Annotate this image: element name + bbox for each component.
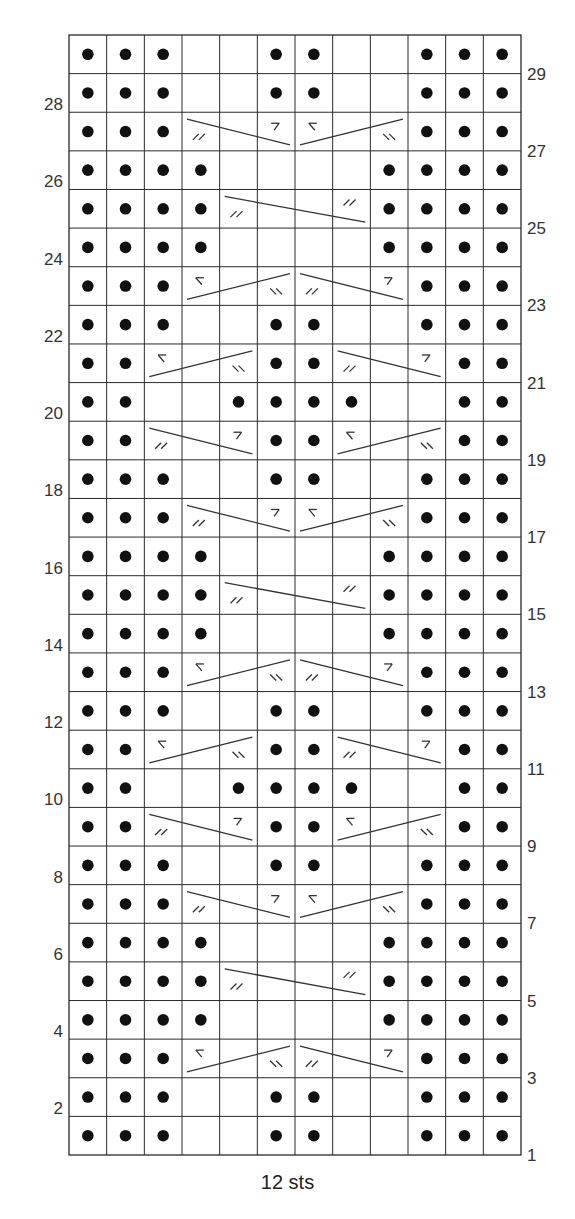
purl-dot-icon: [496, 242, 508, 254]
purl-dot-icon: [496, 705, 508, 717]
purl-dot-icon: [270, 1130, 282, 1142]
purl-dot-icon: [308, 782, 320, 794]
purl-dot-icon: [308, 319, 320, 331]
row-number-label-right: 17: [527, 529, 557, 546]
purl-dot-icon: [421, 1130, 433, 1142]
purl-dot-icon: [383, 628, 395, 640]
purl-dot-icon: [120, 589, 132, 601]
row-number-label-left: 20: [33, 405, 63, 422]
purl-dot-icon: [157, 473, 169, 485]
purl-dot-icon: [120, 473, 132, 485]
purl-dot-icon: [82, 860, 94, 872]
purl-dot-icon: [157, 628, 169, 640]
purl-dot-icon: [195, 203, 207, 215]
purl-dot-icon: [421, 512, 433, 524]
purl-dot-icon: [308, 744, 320, 756]
purl-dot-icon: [383, 589, 395, 601]
purl-dot-icon: [421, 87, 433, 99]
purl-dot-icon: [270, 357, 282, 369]
purl-dot-icon: [459, 1014, 471, 1026]
purl-dot-icon: [82, 435, 94, 447]
purl-dot-icon: [421, 1053, 433, 1065]
purl-dot-icon: [496, 860, 508, 872]
purl-dot-icon: [421, 589, 433, 601]
purl-dot-icon: [421, 164, 433, 176]
purl-dot-icon: [421, 898, 433, 910]
purl-dot-icon: [157, 280, 169, 292]
purl-dot-icon: [459, 435, 471, 447]
purl-dot-icon: [496, 473, 508, 485]
purl-dot-icon: [308, 49, 320, 61]
purl-dot-icon: [195, 937, 207, 949]
purl-dot-icon: [383, 937, 395, 949]
purl-dot-icon: [459, 1053, 471, 1065]
purl-dot-icon: [421, 1091, 433, 1103]
row-number-label-right: 3: [527, 1070, 557, 1087]
purl-dot-icon: [120, 1053, 132, 1065]
purl-dot-icon: [157, 860, 169, 872]
purl-dot-icon: [270, 435, 282, 447]
purl-dot-icon: [459, 744, 471, 756]
row-number-label-right: 9: [527, 838, 557, 855]
purl-dot-icon: [270, 705, 282, 717]
purl-dot-icon: [270, 49, 282, 61]
purl-dot-icon: [157, 49, 169, 61]
purl-dot-icon: [496, 975, 508, 987]
knitting-chart-grid: [0, 0, 575, 1219]
purl-dot-icon: [459, 782, 471, 794]
row-number-label-left: 18: [33, 482, 63, 499]
row-number-label-left: 8: [33, 869, 63, 886]
purl-dot-icon: [82, 898, 94, 910]
row-number-label-right: 27: [527, 143, 557, 160]
purl-dot-icon: [459, 1091, 471, 1103]
purl-dot-icon: [157, 1130, 169, 1142]
row-number-label-left: 24: [33, 251, 63, 268]
purl-dot-icon: [120, 782, 132, 794]
purl-dot-icon: [157, 898, 169, 910]
purl-dot-icon: [82, 937, 94, 949]
purl-dot-icon: [270, 782, 282, 794]
purl-dot-icon: [308, 1130, 320, 1142]
purl-dot-icon: [459, 1130, 471, 1142]
purl-dot-icon: [496, 744, 508, 756]
purl-dot-icon: [82, 49, 94, 61]
purl-dot-icon: [120, 975, 132, 987]
purl-dot-icon: [459, 203, 471, 215]
purl-dot-icon: [383, 1014, 395, 1026]
purl-dot-icon: [120, 512, 132, 524]
purl-dot-icon: [157, 242, 169, 254]
purl-dot-icon: [459, 551, 471, 563]
purl-dot-icon: [421, 280, 433, 292]
purl-dot-icon: [383, 203, 395, 215]
purl-dot-icon: [120, 860, 132, 872]
purl-dot-icon: [496, 357, 508, 369]
purl-dot-icon: [82, 705, 94, 717]
purl-dot-icon: [270, 744, 282, 756]
purl-dot-icon: [82, 203, 94, 215]
purl-dot-icon: [82, 589, 94, 601]
purl-dot-icon: [496, 164, 508, 176]
purl-dot-icon: [496, 49, 508, 61]
purl-dot-icon: [82, 87, 94, 99]
purl-dot-icon: [459, 666, 471, 678]
purl-dot-icon: [496, 435, 508, 447]
purl-dot-icon: [195, 628, 207, 640]
purl-dot-icon: [195, 589, 207, 601]
purl-dot-icon: [157, 551, 169, 563]
row-number-label-left: 10: [33, 791, 63, 808]
purl-dot-icon: [157, 975, 169, 987]
purl-dot-icon: [308, 435, 320, 447]
purl-dot-icon: [157, 203, 169, 215]
purl-dot-icon: [120, 164, 132, 176]
purl-dot-icon: [496, 551, 508, 563]
purl-dot-icon: [496, 126, 508, 138]
purl-dot-icon: [308, 1091, 320, 1103]
purl-dot-icon: [496, 1053, 508, 1065]
purl-dot-icon: [120, 744, 132, 756]
purl-dot-icon: [421, 628, 433, 640]
row-number-label-left: 22: [33, 328, 63, 345]
purl-dot-icon: [308, 860, 320, 872]
row-number-label-right: 23: [527, 297, 557, 314]
row-number-label-right: 15: [527, 606, 557, 623]
purl-dot-icon: [82, 280, 94, 292]
